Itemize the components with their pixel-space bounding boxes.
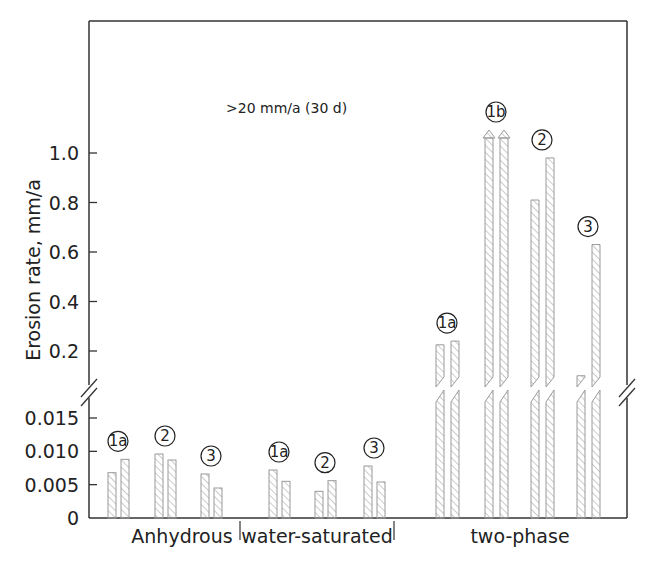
bar-lower-segment bbox=[546, 390, 554, 518]
bar bbox=[315, 491, 323, 518]
bar-group-water-saturated-3: 3 bbox=[364, 438, 385, 518]
bar-upper-segment bbox=[531, 200, 539, 387]
bar-lower-segment bbox=[531, 390, 539, 518]
bar-group-Anhydrous-1a: 1a bbox=[108, 431, 129, 518]
y-tick-label: 0.8 bbox=[49, 192, 79, 214]
bar bbox=[121, 459, 129, 518]
arrow-up-icon bbox=[483, 130, 495, 138]
bar-lower-segment bbox=[485, 390, 493, 518]
bar-group-water-saturated-1a: 1a bbox=[269, 442, 290, 518]
bar bbox=[214, 488, 222, 518]
bar-upper-segment bbox=[577, 376, 585, 387]
series-label: 2 bbox=[320, 454, 330, 472]
bar-groups: 1a231a231a1b23 bbox=[108, 102, 600, 518]
exceeds-scale-annotation: >20 mm/a (30 d) bbox=[226, 100, 347, 116]
bar-lower-segment bbox=[592, 390, 600, 518]
bar-lower-segment bbox=[436, 390, 444, 518]
bar bbox=[328, 481, 336, 518]
bar-group-two-phase-1b: 1b bbox=[483, 102, 510, 518]
series-label: 3 bbox=[369, 439, 379, 457]
bar bbox=[377, 482, 385, 518]
bar-group-two-phase-2: 2 bbox=[531, 130, 554, 518]
bar-group-Anhydrous-2: 2 bbox=[155, 426, 176, 518]
erosion-rate-chart: 0.20.40.60.81.000.0050.0100.015 1a231a23… bbox=[0, 0, 652, 563]
y-tick-label: 1.0 bbox=[49, 142, 79, 164]
bar-upper-segment bbox=[451, 341, 459, 387]
arrow-up-icon bbox=[498, 130, 510, 138]
bar bbox=[155, 454, 163, 518]
y-tick-label: 0.005 bbox=[25, 474, 79, 496]
y-tick-label: 0.010 bbox=[25, 440, 79, 462]
bar-upper-segment bbox=[500, 138, 508, 387]
series-label: 3 bbox=[583, 218, 593, 236]
bar-group-water-saturated-2: 2 bbox=[315, 453, 336, 518]
bar-upper-segment bbox=[592, 245, 600, 387]
bar bbox=[364, 466, 372, 518]
bar-upper-segment bbox=[485, 138, 493, 387]
series-label: 1a bbox=[109, 432, 128, 450]
series-label: 1a bbox=[270, 443, 289, 461]
bar-upper-segment bbox=[546, 158, 554, 387]
bar-lower-segment bbox=[500, 390, 508, 518]
series-label: 3 bbox=[206, 447, 216, 465]
category-label: two-phase bbox=[470, 525, 569, 547]
category-labels: Anhydrouswater-saturatedtwo-phase bbox=[131, 525, 569, 547]
category-label: Anhydrous bbox=[131, 525, 232, 547]
series-label: 1a bbox=[438, 314, 457, 332]
bar-group-Anhydrous-3: 3 bbox=[201, 446, 222, 518]
bar-lower-segment bbox=[577, 390, 585, 518]
bar bbox=[282, 481, 290, 518]
bar-lower-segment bbox=[451, 390, 459, 518]
y-axis-label: Erosion rate, mm/a bbox=[22, 179, 44, 361]
bar bbox=[269, 470, 277, 518]
series-label: 2 bbox=[537, 131, 547, 149]
series-label: 2 bbox=[160, 427, 170, 445]
y-tick-label: 0.6 bbox=[49, 241, 79, 263]
bar-group-two-phase-3: 3 bbox=[577, 217, 600, 518]
bar bbox=[108, 473, 116, 518]
y-tick-label: 0.4 bbox=[49, 291, 79, 313]
series-label: 1b bbox=[486, 103, 505, 121]
bar bbox=[168, 460, 176, 518]
bar bbox=[201, 474, 209, 518]
category-label: water-saturated bbox=[241, 525, 392, 547]
y-tick-label: 0 bbox=[67, 507, 79, 529]
bar-group-two-phase-1a: 1a bbox=[436, 313, 459, 518]
y-tick-label: 0.2 bbox=[49, 340, 79, 362]
y-tick-label: 0.015 bbox=[25, 407, 79, 429]
bar-upper-segment bbox=[436, 345, 444, 387]
